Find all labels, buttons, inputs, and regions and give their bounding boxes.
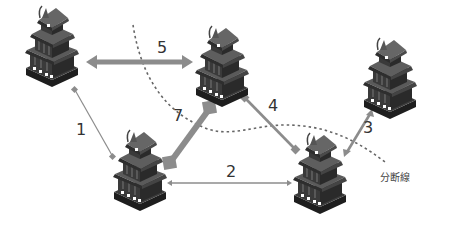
castle-node-a [25,6,79,87]
edge-label-5: 5 [157,40,167,56]
edge-label-3: 3 [363,120,373,136]
edge-label-1: 1 [76,122,86,138]
castle-icon [363,38,417,119]
partition-line-label: 分断線 [380,173,410,183]
edge-5-arrow [86,55,193,69]
castle-icon [25,6,79,87]
partition-dashed-line [133,25,385,162]
network-diagram [0,0,449,228]
castle-icon [113,130,167,211]
edge-label-2: 2 [226,164,236,180]
edge-label-4: 4 [268,98,278,114]
castle-node-b [195,26,249,107]
edge-label-7: 7 [173,108,183,124]
castle-node-d [113,130,167,211]
castle-icon [195,26,249,107]
castle-node-c [363,38,417,119]
castle-node-e [293,133,347,214]
edge-7-arrow [162,100,217,170]
castle-icon [293,133,347,214]
